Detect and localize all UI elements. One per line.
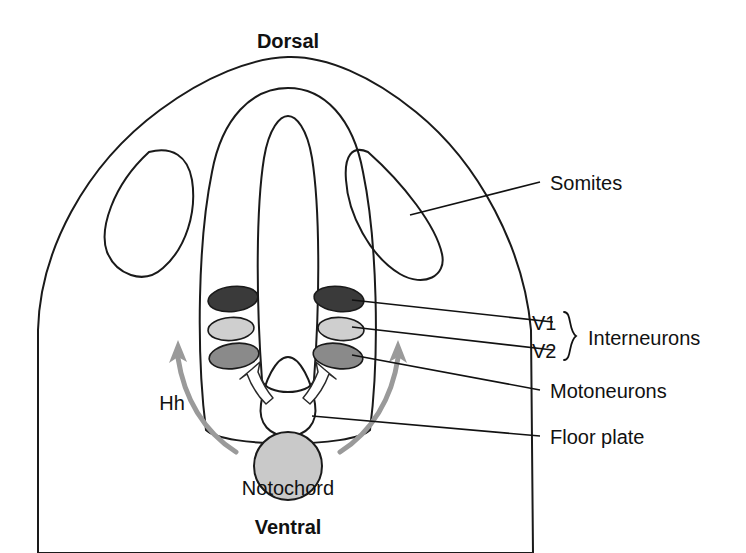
somite-left [105, 150, 193, 276]
label-interneurons: Interneurons [588, 327, 700, 349]
figure-neural-tube-patterning: Dorsal Ventral Somites V1 V2 Interneuron… [0, 0, 746, 553]
label-ventral: Ventral [255, 516, 322, 538]
interneurons-brace [564, 312, 576, 360]
somite-right [346, 150, 443, 280]
neuron-motoneuron-left [208, 340, 261, 372]
label-floor-plate: Floor plate [550, 426, 645, 448]
neuron-v1-right [313, 284, 365, 314]
label-hh: Hh [159, 392, 185, 414]
neuron-v2-right [317, 316, 364, 342]
label-dorsal: Dorsal [257, 30, 319, 52]
floor-plate-arrow-left [240, 362, 273, 404]
leader-line-somites [410, 182, 540, 215]
leader-line-floor-plate [312, 416, 540, 436]
label-motoneurons: Motoneurons [550, 380, 667, 402]
label-v2: V2 [532, 340, 556, 362]
leader-line-motoneurons [352, 355, 540, 390]
neuron-v2-left [207, 316, 254, 342]
leader-line-v2 [352, 327, 553, 350]
label-v1: V1 [532, 312, 556, 334]
floor-plate-arrow-right [303, 362, 336, 404]
neural-canal [258, 116, 319, 392]
leader-line-v1 [352, 300, 553, 322]
neural-tube-outline [200, 88, 376, 444]
label-somites: Somites [550, 172, 622, 194]
diagram-canvas: Dorsal Ventral Somites V1 V2 Interneuron… [0, 0, 746, 553]
neuron-v1-left [207, 284, 259, 314]
label-notochord: Notochord [242, 477, 334, 499]
